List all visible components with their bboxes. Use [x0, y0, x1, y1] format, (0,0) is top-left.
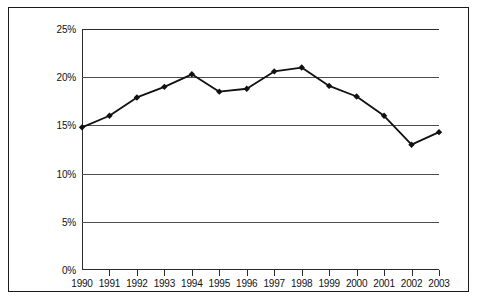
x-tick-mark-1996: [247, 270, 248, 276]
x-tick-label-1993: 1993: [154, 278, 175, 289]
series-polyline: [82, 68, 439, 145]
x-tick-mark-2002: [412, 270, 413, 276]
x-tick-label-1991: 1991: [99, 278, 120, 289]
y-tick-label-10%: 10%: [57, 168, 76, 179]
x-tick-mark-1991: [109, 270, 110, 276]
y-tick-label-15%: 15%: [57, 120, 76, 131]
series-markers: [79, 64, 442, 148]
plot-area: 0%5%10%15%20%25% 19901991199219931994199…: [82, 29, 439, 270]
data-series-line: [82, 29, 439, 270]
x-tick-label-1997: 1997: [263, 278, 284, 289]
y-tick-label-0%: 0%: [62, 265, 76, 276]
figure-border: 0%5%10%15%20%25% 19901991199219931994199…: [8, 7, 469, 292]
data-point-1993: [161, 84, 167, 90]
x-tick-label-1994: 1994: [181, 278, 202, 289]
x-tick-label-2001: 2001: [373, 278, 394, 289]
x-tick-mark-2000: [357, 270, 358, 276]
x-tick-label-1996: 1996: [236, 278, 257, 289]
x-tick-mark-2001: [384, 270, 385, 276]
data-point-2003: [436, 129, 442, 135]
x-tick-mark-1998: [302, 270, 303, 276]
x-tick-mark-1995: [219, 270, 220, 276]
x-tick-label-1992: 1992: [126, 278, 147, 289]
data-point-1990: [79, 124, 85, 130]
x-tick-label-1990: 1990: [71, 278, 92, 289]
x-tick-label-1999: 1999: [318, 278, 339, 289]
y-tick-label-25%: 25%: [57, 24, 76, 35]
x-tick-mark-1992: [137, 270, 138, 276]
y-tick-label-5%: 5%: [62, 216, 76, 227]
x-tick-label-1998: 1998: [291, 278, 312, 289]
x-tick-mark-1997: [274, 270, 275, 276]
x-tick-mark-1993: [164, 270, 165, 276]
x-tick-mark-2003: [439, 270, 440, 276]
x-tick-mark-1994: [192, 270, 193, 276]
x-tick-label-2000: 2000: [346, 278, 367, 289]
chart-figure: 0%5%10%15%20%25% 19901991199219931994199…: [0, 0, 480, 303]
x-tick-label-2002: 2002: [401, 278, 422, 289]
y-tick-label-20%: 20%: [57, 72, 76, 83]
x-tick-label-1995: 1995: [209, 278, 230, 289]
x-tick-label-2003: 2003: [428, 278, 449, 289]
x-tick-mark-1999: [329, 270, 330, 276]
